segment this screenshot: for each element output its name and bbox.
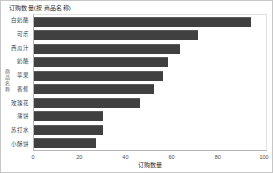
bar-row: [34, 56, 266, 70]
bar-薄饼: [34, 111, 103, 121]
bar-苏打水: [34, 125, 103, 135]
bar-row: [34, 29, 266, 43]
bar-row: [34, 123, 266, 137]
bar-row: [34, 83, 266, 97]
category-label: 小酥饼: [1, 141, 31, 148]
bar-row: [34, 96, 266, 110]
bar-row: [34, 42, 266, 56]
category-label: 可乐: [1, 31, 31, 38]
category-label: 苹果: [1, 72, 31, 79]
category-label: 西瓜汁: [1, 45, 31, 52]
category-label: 奶酪: [1, 58, 31, 65]
x-tick-label: 60: [162, 154, 182, 161]
category-label: 玫瑰花: [1, 100, 31, 107]
x-axis-title: 订购数量: [111, 162, 189, 169]
category-label: 香蕉: [1, 86, 31, 93]
bar-西瓜汁: [34, 44, 180, 54]
x-tick-label: 0: [23, 154, 43, 161]
chart-title: 订购数量(按 商品名称): [9, 4, 71, 12]
bar-小酥饼: [34, 138, 96, 148]
x-tick-label: 80: [208, 154, 228, 161]
category-label: 苏打水: [1, 127, 31, 134]
bar-可乐: [34, 30, 198, 40]
x-tick-label: 20: [69, 154, 89, 161]
x-tick-label: 100: [254, 154, 273, 161]
chart-card: 订购数量(按 商品名称) 商品名称 白奶酪可乐西瓜汁奶酪苹果香蕉玫瑰花薄饼苏打水…: [0, 0, 273, 173]
bar-row: [34, 110, 266, 124]
bar-奶酪: [34, 57, 168, 67]
bar-苹果: [34, 71, 163, 81]
bar-row: [34, 137, 266, 151]
bar-row: [34, 69, 266, 83]
category-label: 薄饼: [1, 113, 31, 120]
x-tick-label: 40: [115, 154, 135, 161]
category-label: 白奶酪: [1, 17, 31, 24]
bar-玫瑰花: [34, 98, 140, 108]
bar-白奶酪: [34, 17, 251, 27]
bar-row: [34, 15, 266, 29]
plot-area: [33, 14, 267, 151]
bar-香蕉: [34, 84, 154, 94]
